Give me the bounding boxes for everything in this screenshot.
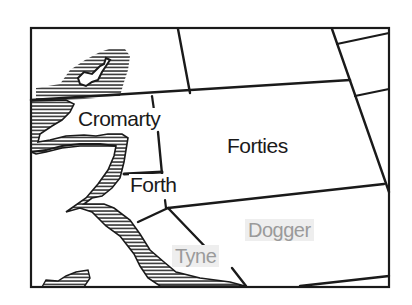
land-north-scotland — [36, 48, 130, 100]
area-label-tyne[interactable]: Tyne — [172, 245, 219, 267]
area-label-forth[interactable]: Forth — [129, 174, 178, 195]
area-label-forties[interactable]: Forties — [226, 135, 289, 156]
area-label-dogger[interactable]: Dogger — [245, 219, 314, 241]
area-label-cromarty[interactable]: Cromarty — [77, 108, 161, 129]
